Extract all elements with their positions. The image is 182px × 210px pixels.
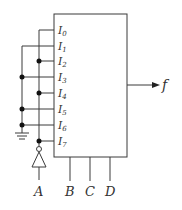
junction-dots (20, 59, 42, 144)
svg-text:I0: I0 (57, 24, 67, 38)
label-a: A (33, 184, 43, 199)
svg-text:I7: I7 (57, 135, 67, 149)
label-c: C (85, 184, 95, 199)
svg-text:I1: I1 (57, 40, 67, 54)
input-labels: I0 I1 I2 I3 I4 I5 I6 I7 (57, 24, 67, 149)
svg-text:I4: I4 (57, 87, 67, 101)
svg-text:I5: I5 (57, 103, 67, 117)
svg-text:I6: I6 (57, 119, 67, 133)
label-b: B (64, 184, 75, 199)
label-d: D (104, 184, 116, 199)
svg-text:I3: I3 (57, 71, 67, 85)
mux-diagram: I0 I1 I2 I3 I4 I5 I6 I7 A B C D f (0, 0, 182, 210)
label-output-f: f (161, 77, 170, 93)
inverter-icon (32, 147, 46, 181)
select-lines (70, 157, 110, 181)
arrow-right-icon (152, 82, 160, 88)
input-stubs (22, 30, 54, 141)
circuit-svg: I0 I1 I2 I3 I4 I5 I6 I7 A B C D f (0, 0, 182, 210)
svg-text:I2: I2 (57, 55, 67, 69)
ground-icon (15, 133, 29, 139)
